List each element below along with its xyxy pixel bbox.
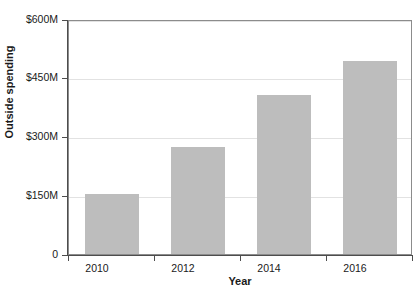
bar-2014[interactable] bbox=[257, 95, 311, 254]
x-tick-label-2014: 2014 bbox=[226, 262, 312, 274]
x-tick-mark-1 bbox=[154, 256, 155, 261]
x-tick-mark-4 bbox=[412, 256, 413, 261]
x-tick-mark-2 bbox=[240, 256, 241, 261]
y-tick-label-450m: $450M bbox=[26, 72, 58, 83]
y-tick-mark-450m bbox=[62, 78, 68, 79]
y-tick-label-0: 0 bbox=[52, 249, 58, 260]
x-axis-title: Year bbox=[68, 275, 412, 287]
y-tick-label-150m: $150M bbox=[26, 190, 58, 201]
bar-2012[interactable] bbox=[171, 147, 225, 254]
y-axis-line bbox=[67, 20, 68, 256]
y-tick-mark-300m bbox=[62, 137, 68, 138]
bar-2016[interactable] bbox=[343, 61, 397, 254]
chart-title-clipped bbox=[18, 0, 348, 3]
x-tick-mark-3 bbox=[326, 256, 327, 261]
bar-chart: $600M $450M $300M $150M 0 Outside spendi… bbox=[0, 0, 420, 291]
y-tick-mark-600m bbox=[62, 20, 68, 21]
x-tick-label-2010: 2010 bbox=[54, 262, 140, 274]
x-tick-label-2012: 2012 bbox=[140, 262, 226, 274]
bar-2010[interactable] bbox=[85, 194, 139, 254]
x-tick-mark-0 bbox=[68, 256, 69, 261]
x-axis-line bbox=[62, 255, 413, 256]
y-tick-mark-150m bbox=[62, 196, 68, 197]
x-tick-label-2016: 2016 bbox=[312, 262, 398, 274]
y-axis-title: Outside spending bbox=[3, 30, 15, 154]
plot-area bbox=[68, 20, 412, 255]
y-tick-label-300m: $300M bbox=[26, 131, 58, 142]
bars-layer bbox=[69, 21, 411, 254]
y-tick-label-600m: $600M bbox=[26, 14, 58, 25]
